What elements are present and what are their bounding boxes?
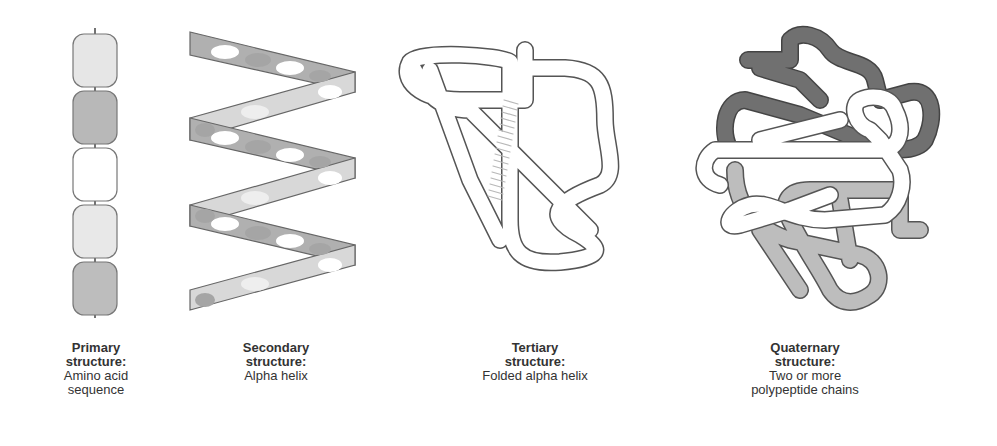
quaternary-caption: Quaternary structure: Two or more polype…: [725, 341, 885, 397]
primary-title-line2: structure:: [44, 355, 148, 369]
secondary-title-line1: Secondary: [220, 341, 332, 355]
amino-acid-bead-2: [73, 91, 117, 144]
quaternary-title-line1: Quaternary: [725, 341, 885, 355]
tertiary-title-line1: Tertiary: [465, 341, 605, 355]
tertiary-caption: Tertiary structure: Folded alpha helix: [465, 341, 605, 383]
tertiary-desc-line1: Folded alpha helix: [465, 369, 605, 383]
primary-desc-line2: sequence: [44, 383, 148, 397]
primary-structure-chain: [73, 28, 117, 318]
primary-caption: Primary structure: Amino acid sequence: [44, 341, 148, 397]
primary-desc-line1: Amino acid: [44, 369, 148, 383]
amino-acid-bead-3: [73, 148, 117, 201]
quaternary-desc-line2: polypeptide chains: [725, 383, 885, 397]
quaternary-complex: [704, 35, 931, 302]
quaternary-title-line2: structure:: [725, 355, 885, 369]
amino-acid-bead-5: [73, 262, 117, 315]
amino-acid-bead-1: [73, 34, 117, 87]
amino-acid-bead-4: [73, 205, 117, 258]
secondary-caption: Secondary structure: Alpha helix: [220, 341, 332, 383]
tertiary-title-line2: structure:: [465, 355, 605, 369]
quaternary-desc-line1: Two or more: [725, 369, 885, 383]
secondary-title-line2: structure:: [220, 355, 332, 369]
tertiary-fold: [407, 50, 610, 262]
alpha-helix-ribbon: [190, 32, 355, 310]
primary-title-line1: Primary: [44, 341, 148, 355]
secondary-desc-line1: Alpha helix: [220, 369, 332, 383]
